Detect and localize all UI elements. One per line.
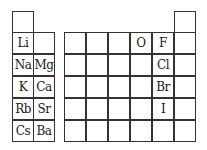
element-cell: [152, 120, 174, 142]
element-cell: [64, 98, 86, 120]
element-cell: [174, 76, 196, 98]
element-cell: F: [152, 32, 174, 54]
element-cell: [108, 76, 130, 98]
element-cell: [64, 32, 86, 54]
element-cell: [174, 98, 196, 120]
element-cell: [108, 98, 130, 120]
element-cell: O: [130, 32, 152, 54]
element-cell: [64, 120, 86, 142]
element-cell-he: [174, 11, 196, 33]
element-cell: Mg: [33, 54, 55, 76]
element-cell: [130, 98, 152, 120]
element-cell: [108, 120, 130, 142]
element-cell: Rb: [12, 98, 34, 120]
element-cell: Ca: [33, 76, 55, 98]
element-cell: [108, 32, 130, 54]
element-cell: [174, 54, 196, 76]
element-cell: [174, 32, 196, 54]
element-cell: Cs: [12, 120, 34, 142]
element-cell: [130, 54, 152, 76]
element-cell: [86, 54, 108, 76]
element-cell: [108, 54, 130, 76]
element-cell: Na: [12, 54, 34, 76]
element-cell-h: [12, 11, 34, 33]
element-cell: [64, 76, 86, 98]
element-cell: Br: [152, 76, 174, 98]
element-cell: [64, 54, 86, 76]
element-cell: [174, 120, 196, 142]
element-cell: [130, 76, 152, 98]
element-cell: [86, 76, 108, 98]
element-cell: [86, 120, 108, 142]
element-cell: I: [152, 98, 174, 120]
element-cell: Cl: [152, 54, 174, 76]
element-cell: K: [12, 76, 34, 98]
element-cell: Ba: [33, 120, 55, 142]
element-cell: [130, 120, 152, 142]
element-cell: Li: [12, 32, 34, 54]
element-cell: [86, 32, 108, 54]
element-cell: [86, 98, 108, 120]
element-cell: Sr: [33, 98, 55, 120]
element-cell: [33, 32, 55, 54]
